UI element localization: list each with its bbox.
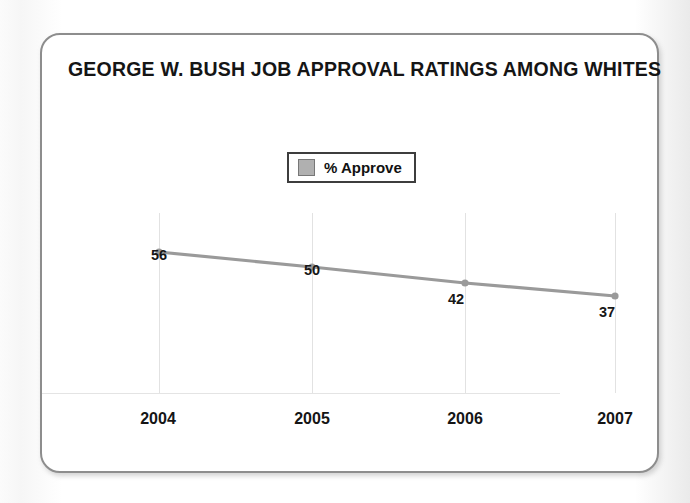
data-label-2005: 50 [304, 262, 320, 278]
data-point-2006 [461, 279, 468, 286]
plot-area: 56 50 42 37 [102, 213, 602, 393]
series-line-approve [102, 213, 622, 393]
x-tick-label-2006: 2006 [435, 410, 495, 428]
chart-title: GEORGE W. BUSH JOB APPROVAL RATINGS AMON… [68, 58, 661, 81]
chart-card: GEORGE W. BUSH JOB APPROVAL RATINGS AMON… [40, 33, 659, 473]
data-point-2007 [611, 292, 618, 299]
data-label-2006: 42 [448, 291, 464, 307]
data-label-2004: 56 [151, 247, 167, 263]
x-tick-label-2005: 2005 [282, 410, 342, 428]
chart-legend: % Approve [287, 152, 416, 183]
x-tick-label-2004: 2004 [128, 410, 188, 428]
line-path-approve [159, 252, 615, 296]
data-label-2007: 37 [599, 304, 615, 320]
x-tick-label-2007: 2007 [585, 410, 645, 428]
x-axis-line [42, 393, 560, 394]
legend-item-label: % Approve [324, 159, 402, 176]
legend-swatch-icon [298, 159, 315, 176]
scanned-page: GEORGE W. BUSH JOB APPROVAL RATINGS AMON… [0, 0, 690, 503]
